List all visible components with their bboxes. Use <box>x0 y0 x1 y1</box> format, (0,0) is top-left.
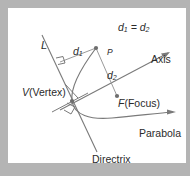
point-p-label: P <box>107 48 113 57</box>
point-v-dot <box>70 99 74 103</box>
equality-operator: = d <box>128 21 146 33</box>
distance-d1-label: d1 <box>73 46 83 57</box>
distance-equality-label: d1 = d2 <box>118 22 149 33</box>
vertex-name-text: (Vertex) <box>29 86 66 98</box>
focus-label: F(Focus) <box>118 98 160 109</box>
equality-subscript-2: 2 <box>146 26 150 33</box>
point-p-dot <box>94 46 98 50</box>
line-l-label: L <box>41 40 47 51</box>
parabola-arrowhead <box>167 110 176 115</box>
axis-label: Axis <box>151 54 171 65</box>
distance-d2-label: d2 <box>107 70 117 81</box>
focus-name-text: (Focus) <box>124 97 160 109</box>
diagram-panel: d1 = d2 L d1 P Axis d2 V(Vertex) F(Focus… <box>8 8 186 163</box>
directrix-label: Directrix <box>92 154 131 165</box>
parabola-label: Parabola <box>139 128 181 139</box>
figure-root: d1 = d2 L d1 P Axis d2 V(Vertex) F(Focus… <box>0 0 190 176</box>
vertex-variable: V <box>22 86 29 98</box>
d2-subscript: 2 <box>113 74 117 81</box>
d1-subscript: 1 <box>79 50 83 57</box>
vertex-label: V(Vertex) <box>22 87 66 98</box>
